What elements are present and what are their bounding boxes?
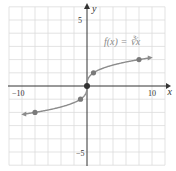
function-label: f(x) = ∛x bbox=[104, 35, 141, 48]
y-min-tick: −5 bbox=[76, 149, 85, 158]
y-axis-label: y bbox=[91, 3, 97, 14]
y-max-tick: 5 bbox=[78, 16, 82, 25]
cube-root-graph: x y −10 10 5 −5 f(x) = ∛x bbox=[0, 0, 176, 171]
data-point bbox=[84, 83, 90, 89]
data-point bbox=[32, 110, 37, 115]
y-axis-arrow-icon bbox=[84, 3, 90, 9]
x-max-tick: 10 bbox=[148, 89, 156, 98]
data-point bbox=[91, 70, 96, 75]
x-axis-label: x bbox=[167, 86, 173, 97]
data-point bbox=[78, 97, 83, 102]
x-min-tick: −10 bbox=[12, 89, 25, 98]
data-point bbox=[136, 57, 141, 62]
